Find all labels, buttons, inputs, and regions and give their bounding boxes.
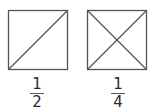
denominator: 4 <box>106 95 130 109</box>
square-quarters <box>88 11 147 70</box>
numerator: 1 <box>106 77 130 91</box>
square-halves <box>9 11 68 70</box>
fraction-label-quarter: 1 4 <box>106 77 130 111</box>
fraction-label-half: 1 2 <box>25 77 49 111</box>
denominator: 2 <box>25 95 49 109</box>
fraction-squares-figure <box>0 0 153 112</box>
diagonal-line <box>9 11 68 70</box>
numerator: 1 <box>25 77 49 91</box>
